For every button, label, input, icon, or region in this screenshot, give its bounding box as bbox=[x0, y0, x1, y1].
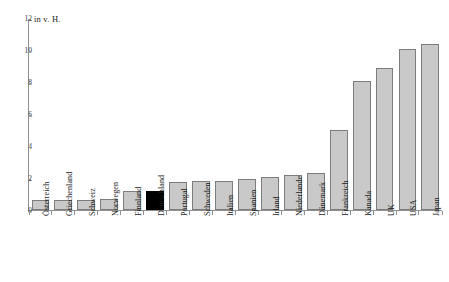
x-axis-label-cell: Spanien bbox=[235, 216, 258, 280]
x-axis-tick-end bbox=[442, 211, 443, 215]
bar-slot bbox=[258, 19, 281, 210]
x-axis-label-cell: USA bbox=[396, 216, 419, 280]
x-axis-label-cell: Kanada bbox=[350, 216, 373, 280]
bar-series bbox=[29, 19, 442, 210]
x-axis-label: UK bbox=[388, 204, 396, 216]
x-axis-label: Deutschland bbox=[158, 175, 166, 216]
x-axis-label-cell: Dänemark bbox=[304, 216, 327, 280]
bar-chart: in v. H. 024681012 ÖsterreichGriechenlan… bbox=[0, 0, 449, 282]
bar-slot bbox=[213, 19, 236, 210]
x-axis-label-cell: Norwegen bbox=[98, 216, 121, 280]
x-axis-label: Finnland bbox=[135, 187, 143, 216]
x-axis-label: Norwegen bbox=[112, 182, 120, 216]
bar-slot bbox=[396, 19, 419, 210]
x-axis-label-cell: Österreich bbox=[29, 216, 52, 280]
bar-slot bbox=[75, 19, 98, 210]
x-axis-label: Irland bbox=[273, 196, 281, 216]
bar bbox=[399, 49, 417, 210]
x-axis-labels: ÖsterreichGriechenlandSchweizNorwegenFin… bbox=[29, 216, 442, 280]
x-axis-label: Niederlande bbox=[296, 176, 304, 216]
x-axis-label: Griechenland bbox=[67, 172, 75, 216]
x-axis-label: Schweden bbox=[204, 182, 212, 216]
x-axis-label-cell: Deutschland bbox=[144, 216, 167, 280]
x-axis-label-cell: Niederlande bbox=[281, 216, 304, 280]
x-axis-label: Frankreich bbox=[342, 180, 350, 216]
x-axis-label: Japan bbox=[434, 197, 442, 216]
bar bbox=[376, 68, 394, 210]
bar bbox=[421, 44, 439, 210]
bar-slot bbox=[167, 19, 190, 210]
x-axis-label-cell: Schweden bbox=[190, 216, 213, 280]
x-axis-label: Schweiz bbox=[90, 188, 98, 216]
x-axis-label-cell: Schweiz bbox=[75, 216, 98, 280]
bar-slot bbox=[350, 19, 373, 210]
x-axis-label: USA bbox=[411, 200, 419, 216]
x-axis-label-cell: UK bbox=[373, 216, 396, 280]
x-axis-label-cell: Japan bbox=[419, 216, 442, 280]
bar-slot bbox=[373, 19, 396, 210]
x-axis-label-cell: Irland bbox=[258, 216, 281, 280]
x-axis-label-cell: Finnland bbox=[121, 216, 144, 280]
x-axis-label: Kanada bbox=[365, 191, 373, 216]
x-axis-label: Spanien bbox=[250, 190, 258, 216]
x-axis-label: Dänemark bbox=[319, 182, 327, 216]
x-axis-label-cell: Frankreich bbox=[327, 216, 350, 280]
bar-slot bbox=[235, 19, 258, 210]
x-axis-label: Österreich bbox=[44, 182, 52, 216]
plot-area: 024681012 bbox=[28, 19, 442, 211]
bar-slot bbox=[419, 19, 442, 210]
x-axis-label-cell: Italien bbox=[213, 216, 236, 280]
x-axis-label: Portugal bbox=[181, 188, 189, 216]
x-axis-label-cell: Griechenland bbox=[52, 216, 75, 280]
x-axis-label: Italien bbox=[227, 195, 235, 216]
bar-slot bbox=[121, 19, 144, 210]
x-axis-label-cell: Portugal bbox=[167, 216, 190, 280]
